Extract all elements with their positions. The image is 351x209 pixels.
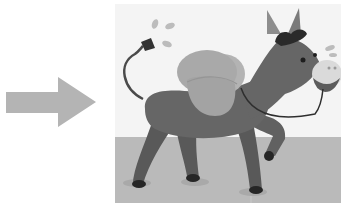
arrow-right-icon <box>6 77 96 133</box>
donkey-illustration <box>115 4 341 203</box>
